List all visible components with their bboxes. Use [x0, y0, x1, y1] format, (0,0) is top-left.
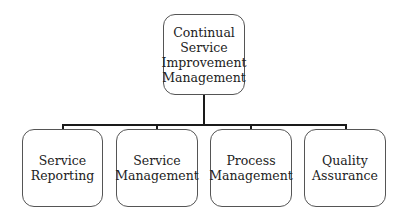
child-node-service-reporting: Service Reporting — [22, 129, 103, 207]
horizontal-bus-connector — [62, 124, 347, 126]
child-node-label: Quality Assurance — [312, 153, 378, 183]
child-node-label: Service Management — [115, 153, 198, 183]
child-node-process-management: Process Management — [210, 129, 292, 207]
root-node: Continual Service Improvement Management — [163, 14, 245, 95]
child-node-label: Service Reporting — [31, 153, 94, 183]
child-node-quality-assurance: Quality Assurance — [304, 129, 386, 207]
root-trunk-connector — [203, 95, 205, 125]
org-chart-diagram: Continual Service Improvement Management… — [0, 0, 406, 221]
child-node-service-management: Service Management — [116, 129, 198, 207]
root-node-label: Continual Service Improvement Management — [161, 25, 246, 85]
child-node-label: Process Management — [209, 153, 292, 183]
